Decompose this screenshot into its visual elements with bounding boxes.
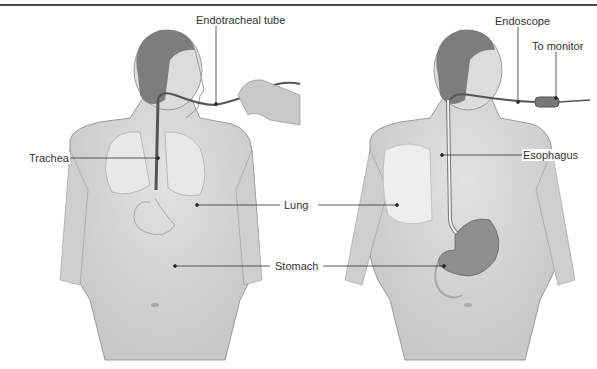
label-endoscope: Endoscope (494, 15, 551, 27)
trachea-tube-shape (156, 100, 158, 190)
label-endotracheal-tube: Endotracheal tube (195, 14, 286, 26)
label-stomach: Stomach (274, 260, 319, 272)
hand-shape (238, 80, 300, 125)
anatomy-illustration (0, 0, 597, 369)
left-figure (60, 30, 300, 360)
right-figure (345, 30, 590, 360)
label-to-monitor: To monitor (531, 40, 584, 52)
label-trachea: Trachea (28, 152, 70, 164)
label-lung: Lung (283, 199, 309, 211)
label-esophagus: Esophagus (522, 149, 579, 161)
